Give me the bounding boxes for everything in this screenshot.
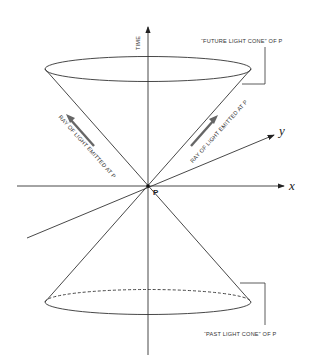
future-cone-bracket xyxy=(242,47,265,84)
light-cone-diagram: TIME x y P “FUTURE LIGHT CONE” OF P “PAS… xyxy=(0,0,313,358)
x-axis-label: x xyxy=(289,178,295,194)
diagram-canvas xyxy=(0,0,313,358)
y-axis-label: y xyxy=(279,123,285,139)
event-point xyxy=(146,184,150,188)
time-axis-label: TIME xyxy=(135,36,141,50)
past-cone-label: “PAST LIGHT CONE” OF P xyxy=(204,331,276,337)
future-cone-label: “FUTURE LIGHT CONE” OF P xyxy=(201,38,282,44)
past-cone-bracket xyxy=(240,283,265,325)
point-p-label: P xyxy=(153,188,158,197)
y-axis xyxy=(27,135,274,238)
